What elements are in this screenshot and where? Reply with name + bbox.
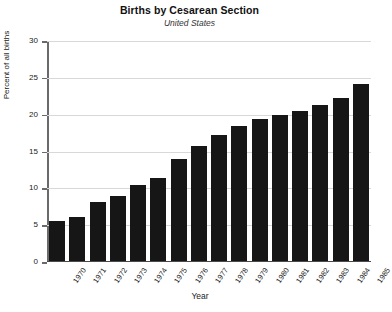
bar: [171, 159, 187, 262]
bar: [333, 98, 349, 262]
x-tick-label: 1970: [71, 266, 88, 285]
x-tick-label: 1980: [274, 266, 291, 285]
chart-title: Births by Cesarean Section: [0, 4, 379, 16]
bar: [49, 221, 65, 262]
bar: [231, 126, 247, 262]
x-tick-label: 1985: [375, 266, 392, 285]
x-axis-baseline: [47, 261, 371, 263]
bar: [90, 202, 106, 262]
bar: [110, 196, 126, 262]
y-tick-label: 5: [12, 220, 38, 229]
x-tick-label: 1978: [233, 266, 250, 285]
bar: [252, 119, 268, 262]
bar: [69, 217, 85, 262]
y-tick-label: 20: [12, 110, 38, 119]
x-tick-label: 1979: [254, 266, 271, 285]
y-tick-label: 25: [12, 73, 38, 82]
x-tick-label: 1975: [173, 266, 190, 285]
y-tick-label: 0: [12, 257, 38, 266]
plot-area: [47, 41, 371, 262]
x-tick-label: 1983: [335, 266, 352, 285]
x-tick-label: 1981: [294, 266, 311, 285]
x-tick-label: 1982: [314, 266, 331, 285]
y-tick-mark: [42, 262, 47, 264]
bar: [150, 178, 166, 262]
bar: [353, 84, 369, 262]
gridline: [47, 78, 371, 79]
y-tick-label: 15: [12, 147, 38, 156]
bar: [272, 115, 288, 262]
chart-subtitle: United States: [0, 18, 379, 28]
bar: [292, 111, 308, 262]
x-tick-label: 1984: [355, 266, 372, 285]
y-axis-label: Percent of all births: [2, 10, 11, 120]
x-axis-label: Year: [150, 291, 250, 301]
x-tick-label: 1976: [193, 266, 210, 285]
x-tick-label: 1977: [213, 266, 230, 285]
bar: [130, 185, 146, 262]
y-tick-label: 10: [12, 183, 38, 192]
gridline: [47, 41, 371, 42]
x-tick-label: 1974: [152, 266, 169, 285]
y-tick-label: 30: [12, 36, 38, 45]
bar: [211, 135, 227, 262]
x-tick-label: 1973: [132, 266, 149, 285]
x-tick-label: 1972: [112, 266, 129, 285]
bar: [191, 146, 207, 262]
x-tick-label: 1971: [92, 266, 109, 285]
bar: [312, 105, 328, 262]
